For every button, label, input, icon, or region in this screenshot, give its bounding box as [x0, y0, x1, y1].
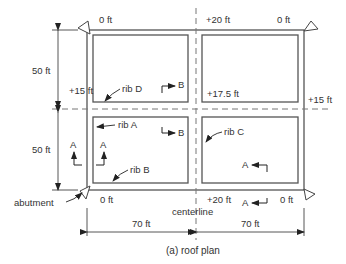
section-a3-label: A	[242, 160, 248, 170]
abutment-leader	[66, 193, 82, 202]
rib-a-leader	[97, 125, 115, 127]
panel-bottom-right	[202, 117, 298, 183]
rib-c-leader	[206, 132, 222, 142]
section-a3-marker	[252, 165, 267, 172]
abutment-top-right	[304, 21, 318, 31]
elevation-center-mid: +17.5 ft	[207, 89, 239, 99]
figure-caption: (a) roof plan	[166, 246, 220, 256]
abutment-label: abutment	[14, 198, 54, 208]
section-a4-marker	[252, 198, 267, 203]
abutment-bottom-right	[304, 189, 315, 200]
elevation-bottom-left: 0 ft	[100, 195, 113, 205]
section-a2-label: A	[100, 140, 106, 150]
abutment-top-left	[78, 21, 90, 34]
rib-c-label: rib C	[224, 127, 244, 137]
section-a1-marker	[74, 152, 82, 165]
elevation-left-mid: +15 ft	[69, 86, 93, 96]
centerline-label: centerline	[172, 207, 213, 217]
dimension-left-upper: 50 ft	[32, 66, 51, 76]
section-a1-label: A	[70, 140, 76, 150]
elevation-top-center: +20 ft	[206, 15, 230, 25]
abutment-bottom-left	[80, 186, 90, 199]
elevation-top-left: 0 ft	[99, 15, 112, 25]
section-b1-marker	[162, 86, 175, 93]
elevation-bottom-right: 0 ft	[280, 195, 293, 205]
dimension-bottom-left: 70 ft	[132, 219, 151, 229]
section-b1-label: B	[178, 80, 184, 90]
roof-plan-drawing	[0, 0, 346, 264]
rib-b-label: rib B	[130, 165, 150, 175]
rib-d-leader	[105, 89, 120, 101]
elevation-top-right: 0 ft	[277, 15, 290, 25]
elevation-right-mid: +15 ft	[308, 95, 332, 105]
dimension-bottom-right: 70 ft	[241, 219, 260, 229]
elevation-bottom-center: +20 ft	[207, 195, 231, 205]
section-b2-label: B	[178, 128, 184, 138]
rib-b-leader	[113, 170, 128, 181]
rib-d-label: rib D	[122, 84, 142, 94]
rib-a-label: rib A	[118, 120, 137, 130]
section-b2-marker	[162, 127, 175, 133]
dimension-left-lower: 50 ft	[32, 145, 51, 155]
section-a4-label: A	[242, 198, 248, 208]
section-a2-marker	[96, 152, 104, 165]
